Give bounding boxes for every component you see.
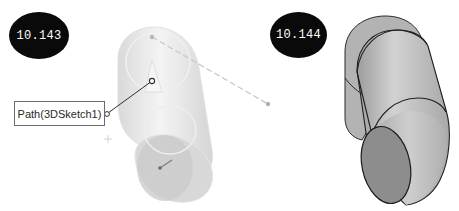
callout-handle-icon xyxy=(105,112,110,117)
swept-solid[interactable] xyxy=(345,16,449,208)
sweep-preview[interactable] xyxy=(118,27,213,202)
path-start-point xyxy=(150,35,154,39)
figure-number-left: 10.143 xyxy=(16,29,61,43)
profile-center-point xyxy=(158,166,162,170)
figure-number-badge-left: 10.143 xyxy=(9,12,69,59)
figure-number-badge-right: 10.144 xyxy=(270,12,327,58)
path-endpoint-marker xyxy=(267,103,270,106)
origin-cross-icon xyxy=(104,135,112,143)
callout-text: Path(3DSketch1) xyxy=(18,108,102,120)
callout-anchor-icon xyxy=(149,78,154,83)
figure-number-right: 10.144 xyxy=(276,28,321,42)
path-callout-label[interactable]: Path(3DSketch1) xyxy=(14,101,105,126)
